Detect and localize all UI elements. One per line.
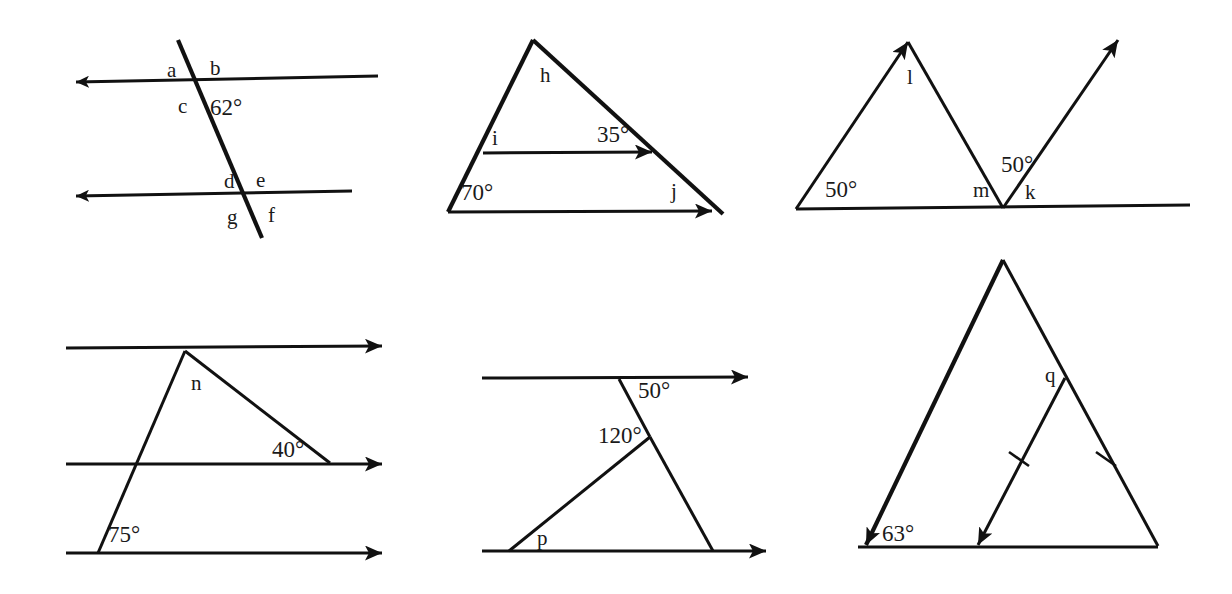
fig4-angle-75: 75° — [108, 522, 140, 547]
fig5-top-parallel-line — [482, 377, 748, 378]
figure-4-three-parallel-lines: n 40° 75° — [66, 346, 382, 553]
fig1-label-f: f — [268, 203, 275, 227]
fig1-label-a: a — [167, 58, 177, 82]
fig6-tick-mark-right-side — [1096, 452, 1116, 466]
fig2-label-j: j — [670, 179, 677, 203]
fig5-bent-segment-to-p — [509, 437, 650, 551]
fig3-label-l: l — [907, 65, 913, 89]
figure-1-parallel-lines-transversal: a b c d e f g 62° — [76, 40, 378, 238]
fig6-angle-63: 63° — [882, 521, 914, 546]
figure-3-zigzag-rays: l 50° m 50° k — [796, 40, 1190, 209]
fig4-top-parallel-line — [66, 346, 382, 348]
fig2-label-h: h — [540, 63, 551, 87]
fig4-angle-40: 40° — [272, 437, 304, 462]
fig1-label-e: e — [256, 168, 265, 192]
fig1-top-parallel-line — [76, 76, 378, 82]
fig1-label-b: b — [210, 56, 221, 80]
fig1-angle-62: 62° — [210, 95, 242, 120]
worksheet-page: a b c d e f g 62° h i 35° j 70° — [0, 0, 1232, 594]
fig2-label-i: i — [492, 126, 498, 150]
figure-5-bent-transversal: 50° 120° p — [482, 377, 766, 551]
fig3-angle-50-left: 50° — [825, 177, 857, 202]
figure-2-triangle-parallel-cevian: h i 35° j 70° — [448, 40, 723, 214]
fig2-inner-parallel-segment — [483, 152, 652, 153]
fig3-baseline — [796, 205, 1190, 209]
fig1-label-g: g — [227, 205, 238, 229]
fig5-angle-50: 50° — [638, 378, 670, 403]
fig6-left-side-arrowed — [866, 260, 1003, 545]
figure-6-triangle-tick-marks: q 63° — [858, 260, 1158, 547]
fig6-right-side — [1003, 260, 1158, 546]
fig1-label-c: c — [178, 94, 187, 118]
fig4-label-n: n — [191, 371, 202, 395]
fig1-bottom-parallel-line — [76, 191, 352, 196]
fig3-angle-50-right: 50° — [1001, 152, 1033, 177]
fig5-angle-120: 120° — [598, 423, 642, 448]
geometry-figures-canvas: a b c d e f g 62° h i 35° j 70° — [0, 0, 1232, 594]
fig6-label-q: q — [1045, 363, 1056, 387]
fig5-lower-transversal-segment — [650, 437, 713, 551]
fig1-label-d: d — [224, 169, 235, 193]
fig2-base-arrow-line — [448, 211, 712, 212]
fig2-angle-35: 35° — [597, 122, 629, 147]
fig3-label-k: k — [1025, 180, 1036, 204]
fig3-right-ray — [1003, 40, 1118, 208]
fig4-right-transversal — [185, 351, 330, 463]
fig2-angle-70: 70° — [461, 180, 493, 205]
fig5-label-p: p — [537, 526, 548, 550]
fig3-label-m: m — [973, 178, 989, 202]
